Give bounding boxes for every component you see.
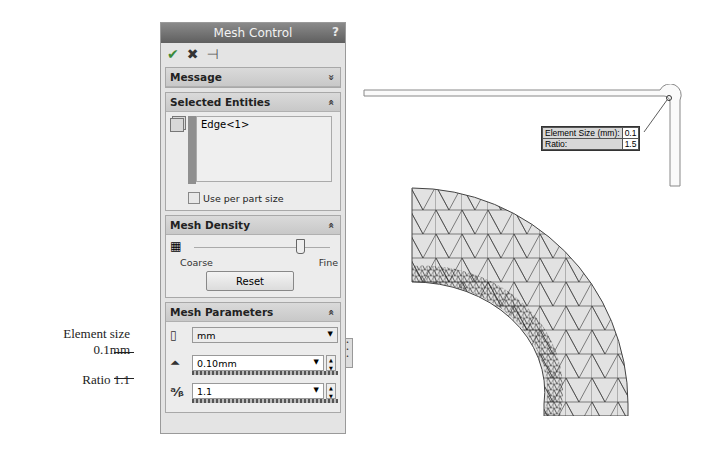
dropdown-arrow-icon[interactable]: ▼ <box>328 330 333 338</box>
dropdown-arrow-icon[interactable]: ▼ <box>314 358 319 366</box>
ok-check-icon[interactable]: ✔ <box>167 46 179 62</box>
ruler-icon: ▯ <box>170 328 177 342</box>
annotation-element-size: Element size 0.1mm <box>40 326 130 358</box>
panel-side-handle[interactable]: ••• <box>346 338 353 368</box>
annotation-leader-ratio <box>114 378 134 379</box>
element-size-row: ⏶ 0.10mm ▼ ▲▼ <box>166 352 340 376</box>
use-per-part-size-option[interactable]: Use per part size <box>188 192 284 204</box>
ratio-thumbwheel[interactable] <box>192 399 338 403</box>
chevron-up-icon[interactable]: « <box>325 309 336 315</box>
mesh-density-section: Mesh Density « ▦ Coarse Fine Reset <box>165 215 341 298</box>
command-row: ✔ ✖ ⊣ <box>161 43 345 65</box>
selected-entities-header[interactable]: Selected Entities « <box>166 93 340 112</box>
mesh-density-icon: ▦ <box>170 239 181 253</box>
ratio-input[interactable]: 1.1 ▼ <box>192 383 324 399</box>
density-slider-thumb[interactable] <box>296 239 305 254</box>
unit-row: ▯ mm ▼ <box>166 324 340 348</box>
entity-list[interactable]: Edge<1> <box>196 116 332 182</box>
fine-label: Fine <box>319 257 338 268</box>
cancel-x-icon[interactable]: ✖ <box>187 46 199 62</box>
message-section: Message » <box>165 67 341 88</box>
density-slider-track[interactable] <box>194 247 330 248</box>
use-per-part-size-checkbox[interactable] <box>188 192 200 204</box>
coarse-label: Coarse <box>180 257 213 268</box>
bent-strip-model <box>360 84 690 194</box>
annotation-leader-size <box>114 352 134 353</box>
chevron-up-icon[interactable]: « <box>325 222 336 228</box>
ratio-row: ᵃ⁄ᵦ 1.1 ▼ ▲▼ <box>166 380 340 404</box>
ratio-icon: ᵃ⁄ᵦ <box>170 384 184 399</box>
pin-icon[interactable]: ⊣ <box>206 46 218 62</box>
chevron-down-icon[interactable]: » <box>325 74 336 80</box>
panel-title: Mesh Control <box>214 26 293 40</box>
mesh-density-header[interactable]: Mesh Density « <box>166 216 340 235</box>
message-header[interactable]: Message » <box>166 68 340 87</box>
selected-entities-section: Selected Entities « Edge<1> Use per part… <box>165 92 341 211</box>
edge-entity-icon <box>170 118 184 132</box>
list-item[interactable]: Edge<1> <box>201 119 327 130</box>
mesh-parameters-section: Mesh Parameters « ▯ mm ▼ ⏶ 0.10mm ▼ ▲▼ <box>165 302 341 413</box>
dropdown-arrow-icon[interactable]: ▼ <box>314 386 319 394</box>
panel-titlebar: Mesh Control ? <box>161 23 345 43</box>
selection-color-bar <box>188 116 196 184</box>
element-size-thumbwheel[interactable] <box>192 371 338 375</box>
reset-button[interactable]: Reset <box>206 271 294 291</box>
element-size-icon: ⏶ <box>170 356 180 370</box>
element-size-spinner[interactable]: ▲▼ <box>326 355 336 371</box>
element-size-input[interactable]: 0.10mm ▼ <box>192 355 324 371</box>
mesh-preview <box>410 186 630 416</box>
mesh-control-callout[interactable]: Element Size (mm):0.1 Ratio:1.5 <box>541 126 640 151</box>
unit-select[interactable]: mm ▼ <box>192 327 338 343</box>
annotation-ratio: Ratio 1.1 <box>40 372 130 388</box>
mesh-control-panel: Mesh Control ? ✔ ✖ ⊣ Message » Selected … <box>160 22 346 434</box>
mesh-parameters-header[interactable]: Mesh Parameters « <box>166 303 340 322</box>
chevron-up-icon[interactable]: « <box>325 99 336 105</box>
help-icon[interactable]: ? <box>332 25 339 39</box>
ratio-spinner[interactable]: ▲▼ <box>326 383 336 399</box>
